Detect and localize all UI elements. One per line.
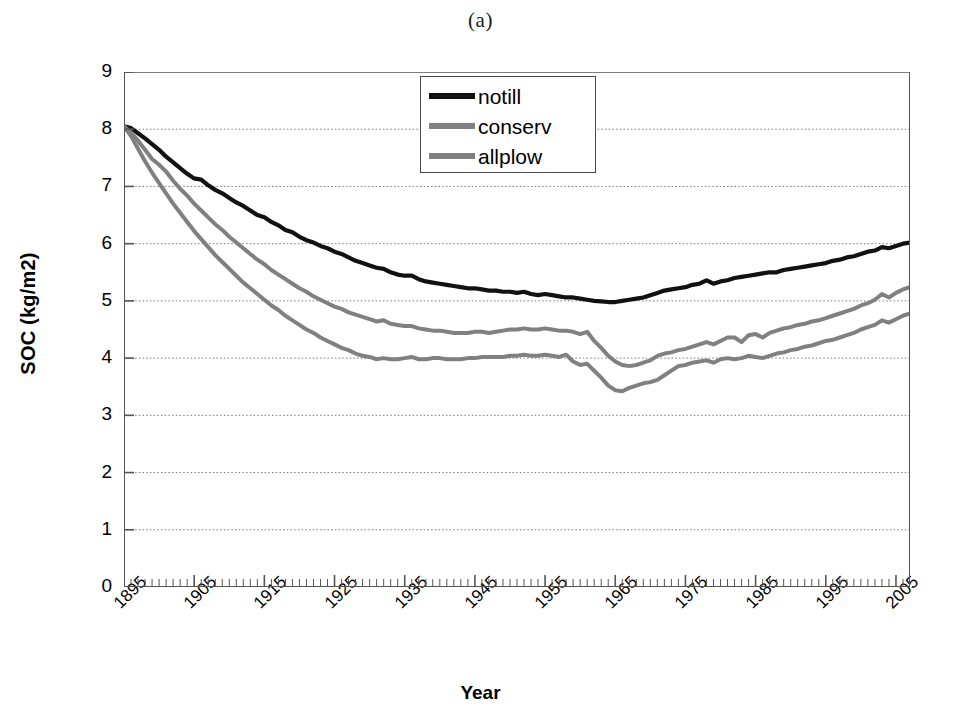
y-tick-label: 8 (82, 117, 112, 139)
chart-figure: (a) SOC (kg/m2) Year 0123456789 18951905… (0, 0, 961, 724)
y-tick-label: 7 (82, 174, 112, 196)
y-tick-label: 0 (82, 575, 112, 597)
legend-item-conserv[interactable]: conserv (429, 111, 552, 141)
y-axis-ticks (124, 72, 134, 587)
legend-swatch-conserv (429, 123, 475, 129)
legend-swatch-notill (429, 93, 475, 99)
x-axis-ticks (124, 575, 910, 587)
legend-item-allplow[interactable]: allplow (429, 141, 542, 171)
y-axis-title: SOC (kg/m2) (17, 194, 40, 434)
x-axis-title: Year (0, 682, 961, 704)
y-tick-label: 2 (82, 461, 112, 483)
legend-swatch-allplow (429, 153, 475, 159)
y-tick-label: 1 (82, 518, 112, 540)
legend-label: allplow (478, 146, 542, 167)
legend-label: conserv (478, 116, 552, 137)
legend-label: notill (478, 86, 521, 107)
chart-legend: notillconservallplow (420, 76, 596, 173)
y-tick-label: 6 (82, 232, 112, 254)
panel-title: (a) (0, 8, 961, 33)
legend-item-notill[interactable]: notill (429, 81, 521, 111)
y-tick-label: 4 (82, 346, 112, 368)
y-tick-label: 3 (82, 403, 112, 425)
y-tick-label: 9 (82, 60, 112, 82)
y-tick-label: 5 (82, 289, 112, 311)
